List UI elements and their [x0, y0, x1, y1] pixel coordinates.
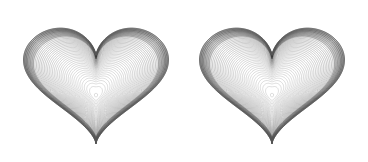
plot-background — [0, 0, 368, 162]
figure-canvas — [0, 0, 368, 162]
contour-plot-svg — [0, 0, 368, 162]
